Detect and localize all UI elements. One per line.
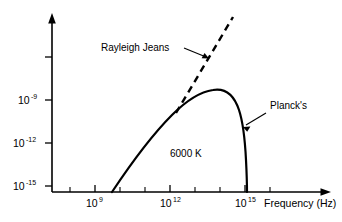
x-tick-label-1e9-mantissa: 10 [86, 197, 98, 209]
annotation-rayleigh-jeans: Rayleigh Jeans [101, 42, 209, 59]
plancks-leader-line [246, 113, 266, 125]
y-tick-label-1e-9: 10 -9 [18, 93, 37, 106]
x-tick-label-1e15: 10 15 [235, 196, 256, 209]
y-tick-labels: 10 -9 10 -12 10 -15 [13, 93, 37, 192]
y-tick-label-1e-15: 10 -15 [13, 179, 36, 192]
y-tick-label-1e-15-mantissa: 10 [13, 180, 25, 192]
x-tick-label-1e9: 10 9 [86, 196, 103, 209]
x-axis-arrow-icon [321, 188, 332, 196]
x-tick-labels: 10 9 10 12 10 15 [86, 196, 256, 209]
x-tick-label-1e9-exponent: 9 [99, 196, 103, 203]
plancks-label: Planck's [270, 100, 307, 111]
temperature-label: 6000 K [170, 148, 202, 159]
y-axis [45, 13, 56, 192]
planck-curve [112, 90, 247, 192]
x-tick-label-1e12: 10 12 [160, 196, 181, 209]
annotation-plancks: Planck's [243, 100, 307, 132]
y-tick-label-1e-9-exponent: -9 [31, 93, 37, 100]
y-axis-arrow-icon [48, 13, 56, 24]
x-tick-label-1e12-mantissa: 10 [160, 197, 172, 209]
x-axis [52, 185, 331, 196]
x-tick-label-1e15-exponent: 15 [248, 196, 256, 203]
rayleigh-jeans-line [176, 17, 233, 113]
y-tick-label-1e-9-mantissa: 10 [18, 94, 30, 106]
x-tick-label-1e12-exponent: 12 [173, 196, 181, 203]
x-axis-title: Frequency (Hz) [264, 197, 336, 209]
x-tick-label-1e15-mantissa: 10 [235, 197, 247, 209]
y-tick-label-1e-12: 10 -12 [13, 136, 36, 149]
y-tick-label-1e-12-exponent: -12 [26, 136, 36, 143]
y-tick-label-1e-15-exponent: -15 [26, 179, 36, 186]
rayleigh-jeans-label: Rayleigh Jeans [101, 42, 169, 53]
rayleigh-jeans-leader-line [184, 48, 206, 57]
blackbody-radiation-chart: 10 -9 10 -12 10 -15 [0, 0, 342, 222]
y-tick-label-1e-12-mantissa: 10 [13, 137, 25, 149]
